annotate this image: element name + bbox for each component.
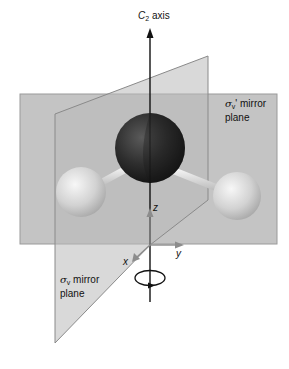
sigma-subscript: v (67, 279, 71, 286)
c2-axis-text: axis (152, 10, 170, 21)
plane-label-line1: mirror (240, 98, 266, 109)
prime-mark: ' (235, 98, 237, 109)
water-symmetry-diagram (0, 0, 289, 369)
z-axis-label: z (153, 202, 158, 213)
sigma-symbol: σ (225, 98, 232, 109)
hydrogen-atom-right (213, 172, 261, 220)
c2-subscript: 2 (145, 15, 149, 22)
c2-arrowhead-icon (147, 28, 154, 38)
x-axis-label: x (123, 256, 128, 267)
y-axis-label: y (176, 248, 181, 259)
plane-label-line2: plane (225, 112, 266, 123)
diagram-stage: C2 axis σv' mirror plane σv mirror plane… (0, 0, 289, 369)
sigma-v-prime-label: σv' mirror plane (225, 98, 266, 123)
c2-axis-label: C2 axis (138, 10, 170, 24)
sigma-v-label: σv mirror plane (60, 274, 99, 299)
plane-label-line2: plane (60, 288, 99, 299)
plane-label-line1: mirror (73, 274, 99, 285)
hydrogen-atom-left (56, 167, 106, 217)
sigma-symbol: σ (60, 274, 67, 285)
